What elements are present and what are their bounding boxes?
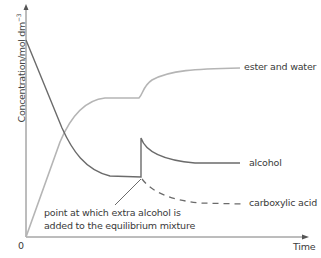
annotation-pointer <box>115 179 141 205</box>
annotation-line-1: point at which extra alcohol is <box>44 207 181 218</box>
alcohol-curve <box>26 40 240 177</box>
annotation-line-2: added to the equilibrium mixture <box>44 220 195 231</box>
x-axis-label: Time <box>293 241 315 252</box>
y-axis-label: Concentration/mol dm−3 <box>15 3 27 133</box>
ester-label: ester and water <box>244 61 316 72</box>
carboxylic-acid-label: carboxylic acid <box>249 197 317 208</box>
origin-label: 0 <box>18 240 24 251</box>
alcohol-label: alcohol <box>249 157 282 168</box>
carboxylic-acid-curve <box>142 179 242 204</box>
x-axis-arrow-icon <box>302 235 309 240</box>
